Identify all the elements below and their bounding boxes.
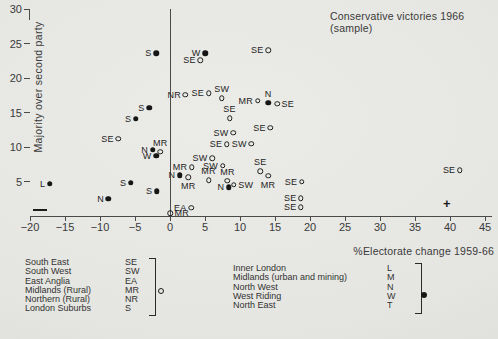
legend-left-bracket bbox=[149, 258, 156, 316]
point-label-MR: MR bbox=[220, 167, 234, 177]
filled-dot-point-N bbox=[265, 100, 271, 106]
point-label-NR: NR bbox=[167, 90, 180, 100]
open-circle-point-MR bbox=[167, 210, 173, 216]
x-tick-label: 35 bbox=[409, 221, 421, 233]
x-tick bbox=[205, 216, 206, 221]
point-label-SE: SE bbox=[251, 45, 263, 55]
point-label-N: N bbox=[169, 170, 176, 180]
x-tick-label: 40 bbox=[444, 221, 456, 233]
filled-dot-point-W bbox=[202, 50, 208, 56]
x-tick bbox=[485, 216, 486, 221]
x-tick-label: 5 bbox=[202, 221, 208, 233]
open-circle-point-SE bbox=[457, 168, 463, 174]
x-tick bbox=[415, 216, 416, 221]
x-tick-label: 0 bbox=[167, 221, 173, 233]
y-tick bbox=[24, 112, 30, 113]
point-label-SE: SE bbox=[285, 177, 297, 187]
x-tick-label: 15 bbox=[269, 221, 281, 233]
open-circle-point-SE bbox=[298, 204, 304, 210]
open-circle-point-SW bbox=[219, 95, 225, 101]
filled-dot-point-L bbox=[47, 181, 53, 187]
legend-region-abbr: T bbox=[387, 301, 393, 310]
legend-right-group: Inner LondonLMidlands (urban and mining)… bbox=[233, 264, 403, 310]
point-label-SE: SE bbox=[284, 202, 296, 212]
filled-dot-point-S bbox=[146, 105, 152, 111]
point-label-SE: SE bbox=[101, 134, 113, 144]
point-label-MR: MR bbox=[153, 138, 167, 148]
open-circle-point-SW bbox=[231, 182, 237, 188]
y-tick-label: 5 bbox=[0, 176, 22, 188]
open-circle-point-SE bbox=[274, 101, 280, 107]
legend-left-group: South EastSESouth WestSWEast AngliaEAMid… bbox=[25, 258, 150, 314]
point-label-SE: SE bbox=[192, 88, 204, 98]
x-tick-label: 20 bbox=[304, 221, 316, 233]
point-label-MR: MR bbox=[201, 166, 215, 176]
x-tick bbox=[450, 216, 451, 221]
x-tick-label: −10 bbox=[91, 221, 110, 233]
x-tick-label: 10 bbox=[234, 221, 246, 233]
chart-title-line2: (sample) bbox=[330, 22, 464, 34]
point-label-SE: SE bbox=[443, 165, 455, 175]
point-label-SW: SW bbox=[214, 128, 229, 138]
legend-item: North EastT bbox=[233, 301, 403, 310]
filled-dot-point-N bbox=[106, 196, 112, 202]
legend-region-abbr: S bbox=[125, 304, 131, 313]
point-label-N: N bbox=[218, 182, 225, 192]
open-circle-point-SE bbox=[258, 168, 264, 174]
point-label-S: S bbox=[120, 178, 126, 188]
x-tick bbox=[380, 216, 381, 221]
y-tick-label: 15 bbox=[0, 107, 22, 119]
figure-canvas: Conservative victories 1966 (sample) Maj… bbox=[0, 0, 498, 339]
filled-dot-point-S bbox=[133, 116, 139, 122]
x-tick-label: −20 bbox=[21, 221, 40, 233]
x-tick bbox=[65, 216, 66, 221]
x-tick-label: −5 bbox=[129, 221, 142, 233]
open-circle-point-SE bbox=[224, 141, 230, 147]
open-circle-point-SW bbox=[248, 141, 254, 147]
filled-dot-point-N bbox=[226, 184, 232, 190]
x-tick bbox=[240, 216, 241, 221]
minus-region-symbol bbox=[33, 209, 47, 211]
open-circle-point-EA bbox=[188, 205, 194, 211]
point-label-L: L bbox=[40, 179, 45, 189]
point-label-S: S bbox=[146, 186, 152, 196]
filled-circle-marker-icon bbox=[421, 292, 427, 298]
point-label-MR: MR bbox=[261, 180, 275, 190]
point-label-MR: MR bbox=[175, 208, 189, 218]
filled-dot-point-S bbox=[128, 180, 134, 186]
x-tick-label: 30 bbox=[374, 221, 386, 233]
point-label-SE: SE bbox=[253, 123, 265, 133]
point-label-W: W bbox=[192, 48, 201, 58]
open-circle-point-SE bbox=[227, 115, 233, 121]
point-label-SE: SE bbox=[210, 139, 222, 149]
x-tick-label: 45 bbox=[479, 221, 491, 233]
open-circle-point-SW bbox=[230, 130, 236, 136]
filled-dot-point-N bbox=[177, 173, 183, 179]
y-axis-title: Majority over second party bbox=[32, 22, 44, 153]
filled-dot-point-S bbox=[153, 50, 159, 56]
open-circle-point-MR bbox=[206, 177, 212, 183]
y-tick bbox=[24, 147, 30, 148]
open-circle-point-MR bbox=[225, 178, 231, 184]
point-label-S: S bbox=[125, 114, 131, 124]
point-label-S: S bbox=[138, 103, 144, 113]
x-tick bbox=[275, 216, 276, 221]
open-circle-point-MR bbox=[185, 175, 191, 181]
y-tick-label: 10 bbox=[0, 141, 22, 153]
open-circle-point-SE bbox=[265, 48, 271, 54]
x-tick bbox=[100, 216, 101, 221]
point-label-S: S bbox=[145, 48, 151, 58]
legend-region-name: London Suburbs bbox=[25, 304, 125, 313]
x-tick bbox=[345, 216, 346, 221]
y-tick bbox=[24, 43, 30, 44]
open-circle-point-SE bbox=[206, 90, 212, 96]
y-tick-label: 20 bbox=[0, 72, 22, 84]
filled-dot-point-W bbox=[153, 153, 159, 159]
x-axis-title: %Electorate change 1959-66 bbox=[353, 245, 494, 257]
point-label-MR: MR bbox=[181, 181, 195, 191]
x-tick bbox=[135, 216, 136, 221]
open-circle-point-MR bbox=[255, 98, 261, 104]
y-axis-line bbox=[170, 9, 171, 216]
open-circle-point-MR bbox=[189, 164, 195, 170]
y-tick bbox=[24, 78, 30, 79]
